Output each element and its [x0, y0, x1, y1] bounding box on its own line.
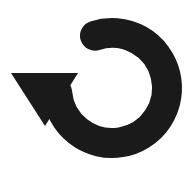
refresh-counterclockwise-icon	[0, 0, 192, 181]
icon-canvas	[0, 0, 192, 181]
